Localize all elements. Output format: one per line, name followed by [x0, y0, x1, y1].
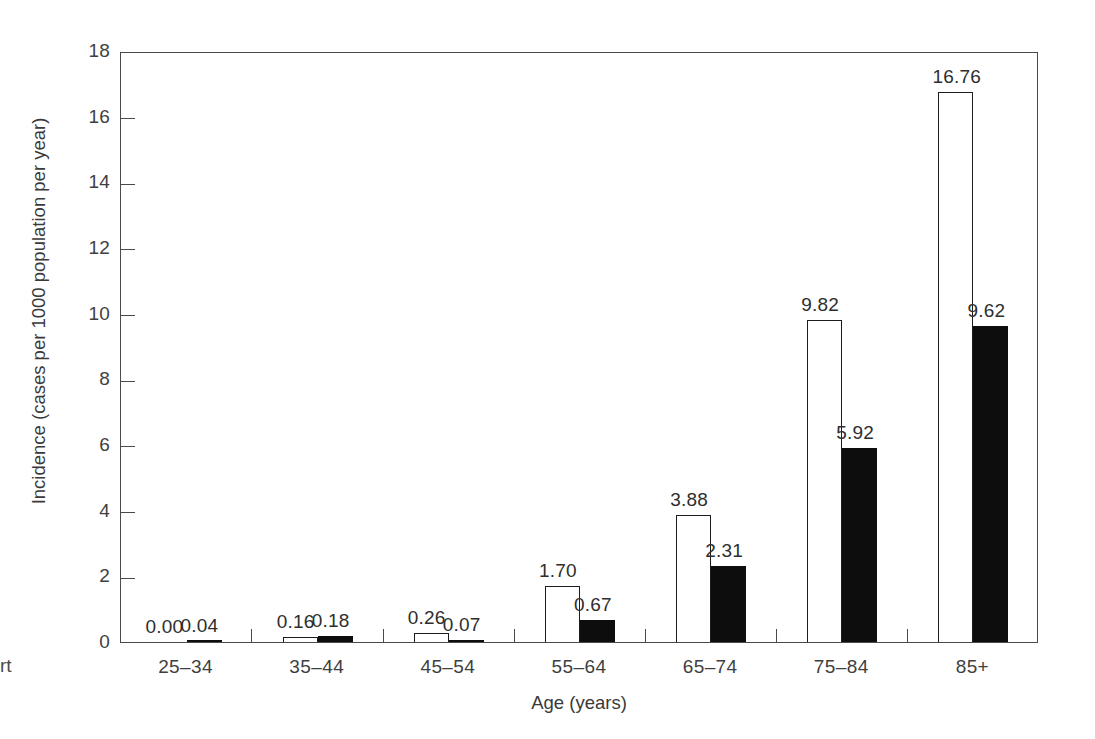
y-axis-tick-label: 16 [62, 106, 110, 128]
bar-value-label: 16.76 [932, 66, 981, 88]
bar-filled-4554 [449, 640, 484, 642]
x-axis-tick [251, 629, 252, 642]
plot-area: 0.000.040.160.180.260.071.700.673.882.31… [120, 52, 1038, 643]
y-axis-tick-label: 8 [62, 368, 110, 390]
y-axis-title: Incidence (cases per 1000 population per… [28, 76, 50, 546]
bar-filled-6574 [711, 566, 746, 642]
y-axis-tick [121, 446, 135, 447]
bar-value-label: 3.88 [670, 489, 708, 511]
y-axis-tick-label: 4 [62, 500, 110, 522]
y-axis-tick [121, 249, 135, 250]
x-axis-tick [645, 629, 646, 642]
x-axis-category-label: 55–64 [513, 656, 644, 678]
figure-incidence-by-age: Incidence (cases per 1000 population per… [0, 0, 1095, 739]
y-axis-tick [121, 578, 135, 579]
bar-open-6574 [676, 515, 711, 642]
bar-value-label: 0.07 [443, 614, 481, 636]
x-axis-tick [383, 629, 384, 642]
y-axis-tick [121, 512, 135, 513]
y-axis-tick-label: 12 [62, 237, 110, 259]
bar-open-3544 [283, 637, 318, 642]
bar-value-label: 0.00 [146, 616, 184, 638]
bar-value-label: 1.70 [539, 560, 577, 582]
y-axis-tick-label: 14 [62, 171, 110, 193]
x-axis-tick [907, 629, 908, 642]
bar-filled-2534 [187, 640, 222, 642]
bar-value-label: 5.92 [836, 422, 874, 444]
x-axis-category-label: 85+ [907, 656, 1038, 678]
y-axis-tick [121, 118, 135, 119]
bar-filled-5564 [580, 620, 615, 642]
bar-value-label: 0.04 [181, 615, 219, 637]
bar-filled-85+ [973, 326, 1008, 642]
bar-value-label: 0.16 [277, 611, 315, 633]
bar-value-label: 9.82 [801, 294, 839, 316]
bar-value-label: 0.18 [312, 610, 350, 632]
caption-fragment: rt [0, 655, 12, 677]
x-axis-category-label: 65–74 [645, 656, 776, 678]
bar-value-label: 2.31 [705, 540, 743, 562]
bar-value-label: 0.67 [574, 594, 612, 616]
x-axis-category-label: 25–34 [120, 656, 251, 678]
x-axis-category-label: 35–44 [251, 656, 382, 678]
y-axis-tick-label: 0 [62, 631, 110, 653]
y-axis-tick [121, 381, 135, 382]
x-axis-category-label: 75–84 [776, 656, 907, 678]
x-axis-tick [776, 629, 777, 642]
bar-filled-7584 [842, 448, 877, 642]
bar-value-label: 9.62 [967, 300, 1005, 322]
bar-value-label: 0.26 [408, 607, 446, 629]
x-axis-title: Age (years) [120, 692, 1038, 714]
y-axis-tick-label: 2 [62, 565, 110, 587]
y-axis-tick-label: 6 [62, 434, 110, 456]
y-axis-tick-label: 18 [62, 40, 110, 62]
y-axis-tick [121, 184, 135, 185]
bar-open-7584 [807, 320, 842, 642]
y-axis-tick-label: 10 [62, 303, 110, 325]
y-axis-tick [121, 315, 135, 316]
x-axis-category-label: 45–54 [382, 656, 513, 678]
bar-open-85+ [938, 92, 973, 642]
bar-filled-3544 [318, 636, 353, 642]
x-axis-tick [514, 629, 515, 642]
